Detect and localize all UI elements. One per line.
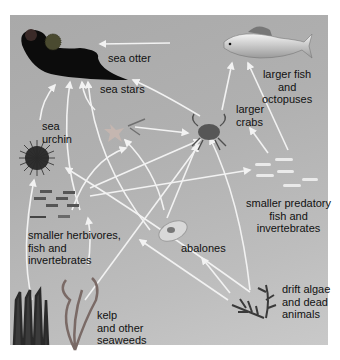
arrow-stars-to-crab: [135, 127, 188, 133]
label-drift-algae: drift algae and dead animals: [282, 283, 330, 321]
drift-algae-icon: [232, 285, 276, 318]
arrow-herb-to-otter: [67, 82, 80, 210]
larger-crabs-icon: [192, 114, 226, 150]
arrow-abalone-to-otter: [88, 82, 150, 230]
sea-stars-icon: [104, 119, 145, 142]
sea-urchin-icon: [19, 140, 55, 176]
label-sea-stars: sea stars: [100, 83, 145, 96]
label-sea-urchin: sea urchin: [42, 120, 72, 145]
label-sea-otter: sea otter: [108, 52, 151, 65]
smaller-herbivores-icon: [30, 190, 79, 218]
arrow-fish-to-otter: [100, 43, 170, 44]
label-smaller-predatory: smaller predatory fish and invertebrates: [246, 197, 331, 235]
label-larger-crabs: larger crabs: [236, 103, 264, 128]
arrow-crab-to-fish: [222, 63, 232, 110]
label-abalones: abalones: [181, 242, 226, 255]
arrow-pred-to-crab: [250, 128, 268, 153]
larger-fish-icon: [224, 26, 312, 58]
arrow-urchin-to-otter: [40, 85, 55, 120]
label-kelp: kelp and other seaweeds: [97, 309, 147, 347]
kelp-icon: [14, 278, 97, 350]
label-smaller-herbivores: smaller herbivores, fish and invertebrat…: [28, 229, 121, 267]
smaller-predatory-icon: [255, 158, 318, 187]
label-larger-fish: larger fish and octopuses: [262, 68, 312, 106]
